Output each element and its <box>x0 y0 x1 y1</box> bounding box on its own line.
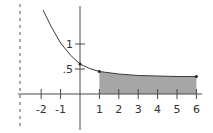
x-tick-label: 2 <box>115 103 122 116</box>
data-point <box>79 63 82 66</box>
x-tick-label: -1 <box>55 103 66 116</box>
x-tick-label: 4 <box>154 103 161 116</box>
chart: -2-1123456 .51 <box>0 0 213 133</box>
data-point <box>195 75 198 78</box>
x-tick-label: 3 <box>135 103 142 116</box>
x-tick-label: 5 <box>174 103 181 116</box>
y-tick-label: 1 <box>66 38 73 51</box>
x-tick-label: 6 <box>193 103 200 116</box>
x-tick-label: -2 <box>36 103 47 116</box>
y-tick-label: .5 <box>63 63 74 76</box>
shaded-region <box>99 72 196 95</box>
shaded-area <box>99 72 196 95</box>
y-ticks: .51 <box>63 38 86 76</box>
x-tick-label: 1 <box>96 103 103 116</box>
data-point <box>98 70 101 73</box>
